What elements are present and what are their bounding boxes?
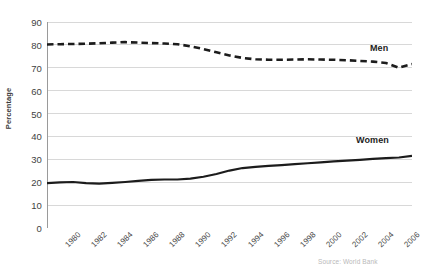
x-tick-label: 1988 [168,230,187,249]
x-tick-label: 2004 [376,230,395,249]
y-tick-label: 40 [31,131,42,142]
x-tick-label: 1998 [298,230,317,249]
x-tick-label: 1982 [89,230,108,249]
x-tick-label: 2006 [402,230,421,249]
y-tick-label: 60 [31,85,42,96]
x-tick-label: 1994 [246,230,265,249]
x-tick-label: 1990 [194,230,213,249]
x-tick-label: 1984 [115,230,134,249]
x-tick-label: 1980 [63,230,82,249]
y-tick-label: 50 [31,108,42,119]
y-tick-label: 70 [31,62,42,73]
series-label-women: Women [356,135,389,145]
x-tick-label: 1996 [272,230,291,249]
y-tick-label: 0 [37,223,42,234]
source-note: Source: World Bank [318,258,377,265]
y-axis-tick-labels: 0102030405060708090 [0,22,42,228]
y-tick-label: 20 [31,177,42,188]
chart-container: Percentage 0102030405060708090 198019821… [0,0,424,268]
x-tick-label: 2000 [324,230,343,249]
x-tick-label: 1986 [142,230,161,249]
plot-svg [47,22,412,228]
series-label-men: Men [370,43,388,53]
x-tick-label: 1992 [220,230,239,249]
series-line-men [47,42,412,68]
plot-area [47,22,412,228]
x-tick-label: 2002 [350,230,369,249]
y-tick-label: 30 [31,154,42,165]
series-line-women [47,156,412,184]
y-tick-label: 10 [31,200,42,211]
y-tick-label: 80 [31,39,42,50]
y-tick-label: 90 [31,17,42,28]
